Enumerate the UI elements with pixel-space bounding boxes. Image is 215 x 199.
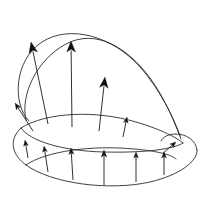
figure-container <box>0 0 215 199</box>
vector-field-diagram <box>0 0 215 199</box>
